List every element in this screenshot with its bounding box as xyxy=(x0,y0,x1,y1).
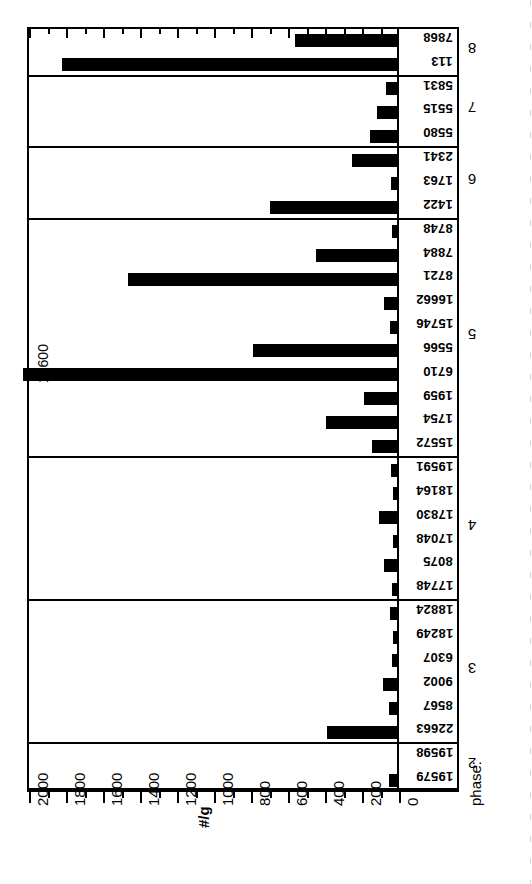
axis-tick-top xyxy=(85,29,87,34)
category-label: 5566 xyxy=(423,341,453,354)
bar xyxy=(316,249,397,262)
axis-tick-major xyxy=(399,792,401,803)
category-label: 15572 xyxy=(416,436,453,449)
axis-tick-top xyxy=(140,29,142,38)
bar xyxy=(23,368,399,381)
scan-edge-artifact xyxy=(530,0,531,884)
axis-tick-label: 1600 xyxy=(109,773,124,806)
group-separator xyxy=(27,742,459,744)
axis-tick-major xyxy=(251,792,253,803)
axis-tick-label: 400 xyxy=(331,781,346,806)
bar xyxy=(377,106,397,119)
bar xyxy=(391,464,397,477)
category-label: 1422 xyxy=(423,198,453,211)
axis-tick-top xyxy=(29,29,31,38)
axis-tick-top xyxy=(196,29,198,34)
axis-tick-top xyxy=(325,29,327,38)
axis-tick-top xyxy=(66,29,68,38)
axis-tick-top xyxy=(159,29,161,34)
category-label: 5580 xyxy=(423,126,453,139)
category-label: 2341 xyxy=(423,150,453,163)
group-separator xyxy=(27,146,459,148)
bar xyxy=(392,225,397,238)
axis-tick-top xyxy=(307,29,309,34)
category-label: 9002 xyxy=(423,675,453,688)
x-axis-line xyxy=(27,790,459,792)
bar xyxy=(295,34,397,47)
axis-tick-label: 800 xyxy=(257,781,272,806)
bar xyxy=(392,654,397,667)
category-label: 19598 xyxy=(416,746,453,759)
axis-tick-top xyxy=(344,29,346,34)
bar xyxy=(393,487,397,500)
axis-tick-top xyxy=(362,29,364,38)
phase-number: 3 xyxy=(468,661,476,676)
bar xyxy=(384,559,397,572)
axis-tick-label: 200 xyxy=(368,781,383,806)
bar xyxy=(327,726,397,739)
category-label: 7868 xyxy=(423,31,453,44)
axis-tick-major xyxy=(325,792,327,803)
phase-number: 6 xyxy=(468,172,476,187)
bar xyxy=(392,583,397,596)
axis-tick-top xyxy=(48,29,50,34)
category-label: 18249 xyxy=(416,627,453,640)
axis-tick-top xyxy=(177,29,179,38)
bar xyxy=(372,440,397,453)
offscale-value-annotation: 12600 xyxy=(36,344,50,383)
bar xyxy=(384,297,397,310)
category-label: 1754 xyxy=(423,412,453,425)
axis-tick-label: 1400 xyxy=(146,773,161,806)
category-label: 8721 xyxy=(423,269,453,282)
axis-tick-top xyxy=(381,29,383,34)
axis-tick-major xyxy=(66,792,68,803)
axis-tick-label: 0 xyxy=(405,798,420,806)
category-label: 6710 xyxy=(423,365,453,378)
axis-tick-label: 2000 xyxy=(35,773,50,806)
axis-tick-label: 1000 xyxy=(220,773,235,806)
category-label: 8075 xyxy=(423,555,453,568)
category-label: 16662 xyxy=(416,293,453,306)
category-label: 17748 xyxy=(416,579,453,592)
axis-tick-major xyxy=(362,792,364,803)
category-label: 17830 xyxy=(416,508,453,521)
bar xyxy=(253,344,397,357)
category-label: 6307 xyxy=(423,651,453,664)
phase-number: 7 xyxy=(468,100,476,115)
category-label: 17048 xyxy=(416,532,453,545)
category-label: 18824 xyxy=(416,603,453,616)
category-label: 113 xyxy=(431,55,453,68)
bar xyxy=(379,511,397,524)
bar xyxy=(128,273,397,286)
bar xyxy=(383,678,397,691)
phase-number: 5 xyxy=(468,327,476,342)
bar xyxy=(393,631,397,644)
phase-caption: phase: xyxy=(468,761,483,806)
axis-tick-top xyxy=(233,29,235,34)
figure-stage: 7868113583155155580234117631422874878848… xyxy=(0,0,532,884)
axis-tick-major xyxy=(29,792,31,803)
axis-tick-top xyxy=(288,29,290,38)
group-separator xyxy=(27,456,459,458)
group-separator xyxy=(27,75,459,77)
category-label: 19591 xyxy=(416,460,453,473)
bar xyxy=(391,177,397,190)
group-separator xyxy=(27,599,459,601)
plot-area xyxy=(27,27,399,790)
phase-number: 4 xyxy=(468,518,476,533)
category-label: 22663 xyxy=(416,722,453,735)
axis-tick-label: 600 xyxy=(294,781,309,806)
category-label: 8567 xyxy=(423,699,453,712)
bar xyxy=(393,535,397,548)
axis-tick-major xyxy=(288,792,290,803)
axis-tick-label: 1800 xyxy=(72,773,87,806)
bar xyxy=(270,201,397,214)
category-label: 1959 xyxy=(423,389,453,402)
bar xyxy=(386,82,397,95)
category-label: 7884 xyxy=(423,246,453,259)
axis-tick-top xyxy=(251,29,253,38)
category-label: 8748 xyxy=(423,222,453,235)
axis-tick-major xyxy=(103,792,105,803)
bar xyxy=(352,154,397,167)
category-label: 1763 xyxy=(423,174,453,187)
